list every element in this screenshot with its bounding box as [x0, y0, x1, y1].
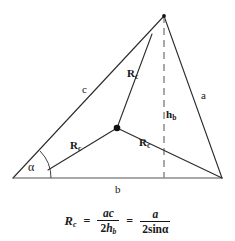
circumradius-formula: Rc = ac 2hb = a 2sinα: [0, 202, 235, 241]
formula-fraction2-den-angle: α: [162, 223, 168, 235]
formula-fraction1-den-subscript: b: [113, 227, 117, 236]
side-label-c: c: [82, 84, 87, 95]
height-label-hb: hb: [166, 109, 176, 121]
triangle-side-c: [13, 16, 164, 178]
formula-fraction1-numerator: ac: [101, 207, 116, 220]
formula-fraction2-den-function: sin: [148, 223, 162, 235]
formula-row: Rc = ac 2hb = a 2sinα: [65, 207, 171, 236]
formula-lhs-base: R: [65, 214, 73, 228]
formula-fraction1-denominator: 2hb: [98, 221, 118, 236]
radius-label-left: Rc: [70, 140, 81, 152]
formula-fraction2-numerator: a: [150, 208, 160, 221]
circumradius-segment-left: [48, 128, 117, 170]
formula-fraction-ac-over-2hb: ac 2hb: [97, 207, 119, 236]
triangle-side-a: [164, 16, 222, 178]
radius-label-apex-subscript: c: [135, 72, 138, 81]
formula-lhs: Rc: [65, 214, 77, 229]
side-label-a: a: [201, 90, 206, 101]
formula-fraction-a-over-2sina: a 2sinα: [140, 208, 170, 235]
height-label-subscript: b: [172, 113, 176, 122]
radius-label-apex: Rc: [127, 68, 138, 80]
angle-label-alpha: α: [28, 161, 34, 173]
apex-vertex-dot: [162, 14, 166, 18]
formula-lhs-subscript: c: [73, 220, 77, 229]
radius-label-left-base: R: [70, 139, 78, 151]
formula-fraction2-denominator: 2sinα: [140, 222, 170, 235]
side-label-b: b: [115, 184, 121, 195]
radius-label-left-subscript: c: [78, 144, 81, 153]
circumradius-figure: c a b α hb Rc Rc Rc Rc = ac 2hb = a 2sin…: [0, 0, 235, 241]
angle-alpha-arc: [40, 151, 51, 178]
radius-label-right-base: R: [139, 136, 147, 148]
formula-equals-second: =: [125, 214, 134, 229]
radius-label-right-subscript: c: [147, 141, 150, 150]
radius-label-apex-base: R: [127, 67, 135, 79]
formula-equals-first: =: [82, 214, 91, 229]
radius-label-right: Rc: [139, 137, 150, 149]
circumcenter-dot: [114, 125, 121, 132]
